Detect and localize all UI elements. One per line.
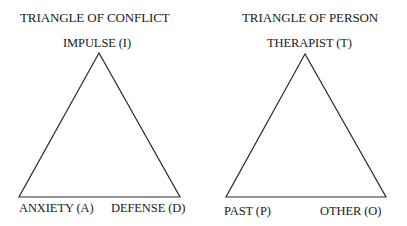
other-vertex-label: OTHER (O) xyxy=(320,204,381,218)
triangle-of-conflict-shape xyxy=(19,53,180,197)
defense-vertex-label: DEFENSE (D) xyxy=(111,201,185,215)
triangle-of-person-shape xyxy=(226,54,386,197)
past-vertex-label: PAST (P) xyxy=(224,204,271,218)
triangle-lines xyxy=(0,0,407,226)
triangle-of-person-title: TRIANGLE OF PERSON xyxy=(242,11,378,25)
triangle-of-conflict-title: TRIANGLE OF CONFLICT xyxy=(20,11,170,25)
impulse-vertex-label: IMPULSE (I) xyxy=(63,36,131,50)
anxiety-vertex-label: ANXIETY (A) xyxy=(19,201,93,215)
triangle-diagrams: TRIANGLE OF CONFLICT IMPULSE (I) ANXIETY… xyxy=(0,0,407,226)
therapist-vertex-label: THERAPIST (T) xyxy=(267,36,352,50)
